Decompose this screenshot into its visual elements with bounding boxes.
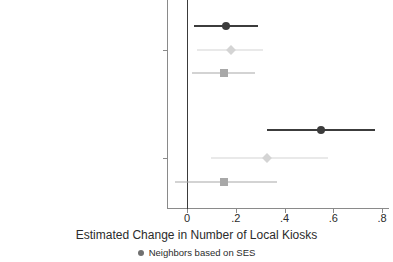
point-estimate-square-marker [220,178,228,186]
point-estimate-diamond-marker [262,153,272,163]
point-estimate-square-marker [220,69,228,77]
x-tick-label: 0 [184,212,190,224]
y-tick [163,50,168,51]
y-tick [163,158,168,159]
plot-area: 0.2.4.6.8 [167,0,389,209]
x-tick-label: .4 [280,212,289,224]
point-estimate-circle-marker [222,22,230,30]
legend-label: Neighbors based on SES [149,247,256,258]
x-axis-line [167,208,389,209]
x-tick-label: .2 [231,212,240,224]
x-axis-title: Estimated Change in Number of Local Kios… [0,228,393,242]
point-estimate-diamond-marker [226,45,236,55]
x-tick-label: .6 [329,212,338,224]
coefficient-plot-figure: 0.2.4.6.8 SDWA Health Violations (Direct… [0,0,393,262]
chart-legend: Neighbors based on SES [0,247,393,258]
y-axis-line [167,0,168,209]
zero-reference-line [187,0,188,209]
point-estimate-circle-marker [317,126,325,134]
x-tick-label: .8 [377,212,386,224]
legend-circle-icon [138,250,144,256]
